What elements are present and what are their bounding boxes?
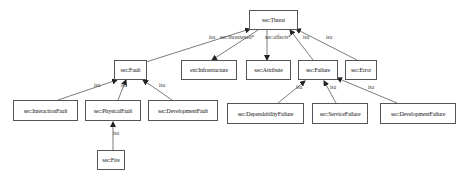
node-label: sec:ServiceFailure (320, 111, 361, 117)
node-servfailure: sec:ServiceFailure (312, 103, 368, 124)
edge-label: isa (296, 84, 302, 90)
node-interaction: sec:InteractionFault (13, 100, 78, 121)
node-label: sec:Failure (306, 67, 330, 73)
node-threat: sec:Threat (249, 10, 298, 30)
node-label: sec:PhysicalFault (94, 108, 133, 114)
edge-label: isa (303, 34, 309, 40)
node-label: ext:Infrastructure (190, 67, 228, 73)
node-failure: sec:Failure (298, 60, 338, 80)
node-label: sec:Error (351, 67, 371, 73)
edge-devfault-to-fault (143, 80, 172, 100)
edge-label: isa (209, 34, 215, 40)
node-devfault: sec:DevelopmentFault (148, 100, 218, 121)
node-label: sec:DevelopmentFault (158, 108, 208, 114)
node-label: sec:DevelopmentFailure (391, 111, 445, 117)
edge-interaction-to-fault (58, 80, 117, 100)
node-label: sec:Fault (121, 67, 141, 73)
edge-layer (0, 0, 470, 177)
node-depfailure: sec:DependabilityFailure (227, 103, 304, 124)
edge-label: isa (159, 82, 165, 88)
node-label: sec:DependabilityFailure (238, 111, 294, 117)
edge-label: isa (113, 130, 119, 136)
edge-label: isa (94, 82, 100, 88)
ontology-diagram: sec:Threatsec:Faultext:Infrastructuresec… (0, 0, 470, 177)
node-infra: ext:Infrastructure (181, 60, 237, 80)
edge-label: isa (330, 84, 336, 90)
edge-label: isa (326, 34, 332, 40)
node-error: sec:Error (345, 60, 377, 80)
edge-label: sec:threatened* (220, 34, 254, 40)
node-label: sec:Threat (262, 17, 285, 23)
node-label: sec:InteractionFault (24, 108, 68, 114)
node-devfailure: sec:DevelopmentFailure (380, 103, 456, 124)
edge-label: sec:affects* (265, 34, 291, 40)
node-label: sec:Attribute (254, 67, 282, 73)
node-attribute: sec:Attribute (246, 60, 291, 80)
node-fault: sec:Fault (114, 60, 147, 80)
node-fire: sec:Fire (97, 150, 125, 170)
node-label: sec:Fire (102, 157, 119, 163)
edge-devfailure-to-failure (337, 78, 397, 103)
edge-label: isa (368, 84, 374, 90)
edge-label: isa (121, 82, 127, 88)
edge-failure-to-threat (290, 30, 313, 60)
node-physical: sec:PhysicalFault (85, 100, 141, 121)
